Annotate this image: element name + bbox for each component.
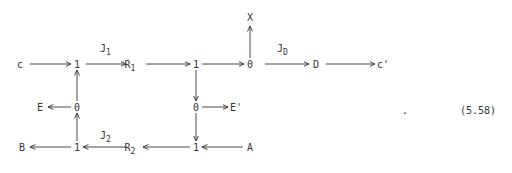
bond-graph-diagram: c 1 R1 1 0 X D c' E 0 0 E' B 1 R2 1 A J1… [0, 0, 512, 173]
bond-label-J1: J1 [100, 43, 111, 57]
node-R2: R2 [125, 142, 136, 156]
node-1-bottom-left: 1 [74, 142, 80, 153]
equation-number: (5.58) [460, 105, 496, 116]
node-R1: R1 [125, 59, 136, 73]
node-E-prime: E' [230, 102, 242, 113]
node-0-mid-right: 0 [193, 102, 199, 113]
node-D: D [313, 59, 319, 70]
node-1-top-mid: 1 [193, 59, 199, 70]
bond-label-JD: JD [277, 43, 288, 57]
trailing-period: . [402, 105, 408, 116]
node-0-mid-left: 0 [74, 102, 80, 113]
node-0-top-right: 0 [247, 59, 253, 70]
edges [30, 26, 375, 147]
nodes: c 1 R1 1 0 X D c' E 0 0 E' B 1 R2 1 A [17, 12, 389, 156]
node-B: B [19, 142, 25, 153]
node-X: X [247, 12, 253, 23]
node-A: A [247, 142, 253, 153]
node-c-prime: c' [377, 59, 389, 70]
node-E: E [37, 102, 43, 113]
node-1-bottom-mid: 1 [193, 142, 199, 153]
node-c: c [17, 59, 23, 70]
bond-label-J2: J2 [100, 130, 111, 144]
node-1-top-left: 1 [74, 59, 80, 70]
